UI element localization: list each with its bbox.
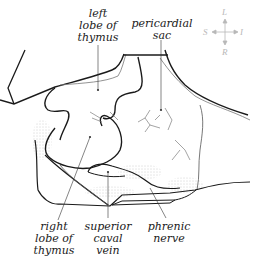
compass-arrows [212,19,238,45]
compass-label-top: L [222,7,227,17]
leader-dots [89,89,162,173]
compass-label-left: S [203,27,208,37]
label-left-lobe-of-thymus: left lobe of thymus [72,8,124,44]
compass-label-right: I [240,27,243,37]
compass-label-bottom: R [222,47,228,57]
thymus-diagram: left lobe of thymus pericardial sac righ… [0,0,253,260]
label-superior-caval-vein: superior caval vein [82,221,134,257]
stipple-shading [32,120,203,198]
label-pericardial-sac: pericardial sac [128,18,196,42]
label-phrenic-nerve: phrenic nerve [144,221,194,245]
label-right-lobe-of-thymus: right lobe of thymus [28,221,80,257]
